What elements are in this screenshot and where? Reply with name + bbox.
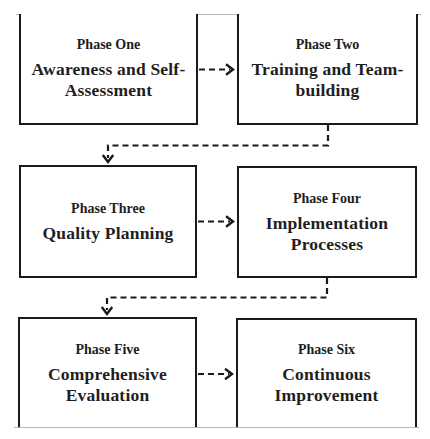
phase-three-box: Phase Three Quality Planning <box>19 165 197 278</box>
phase-title-line: Training and Team- <box>251 59 403 80</box>
phase-label: Phase One <box>77 36 140 54</box>
arrowhead-right-icon <box>227 217 233 226</box>
phase-label: Phase Two <box>296 36 360 54</box>
dashed-elbow-line <box>107 278 327 310</box>
phase-title-line: Improvement <box>275 385 379 406</box>
phase-title-line: Implementation <box>266 213 388 234</box>
phase-title-line: Awareness and Self- <box>32 59 186 80</box>
phase-title-line: Processes <box>291 234 363 255</box>
phase-title-line: Continuous <box>282 364 371 385</box>
phase-title-line: Comprehensive <box>48 364 167 385</box>
arrowhead-right-icon <box>226 370 232 379</box>
phase-six-box: Phase Six Continuous Improvement <box>236 318 417 427</box>
phase-one-box: Phase One Awareness and Self- Assessment <box>19 14 198 125</box>
phase-label: Phase Five <box>75 341 139 359</box>
arrowhead-right-icon <box>227 65 233 74</box>
phase-title-line: building <box>296 80 360 101</box>
phase-label: Phase Six <box>298 341 355 359</box>
phase-title-line: Assessment <box>65 80 153 101</box>
phase-five-box: Phase Five Comprehensive Evaluation <box>18 317 197 427</box>
phase-title-line: Evaluation <box>66 385 150 406</box>
phase-four-box: Phase Four Implementation Processes <box>237 166 417 278</box>
arrowhead-down-icon <box>103 308 112 314</box>
phase-two-box: Phase Two Training and Team- building <box>237 14 418 125</box>
arrowhead-down-icon <box>104 156 113 162</box>
phase-label: Phase Four <box>293 190 361 208</box>
phase-title-line: Quality Planning <box>42 223 173 244</box>
phase-label: Phase Three <box>71 200 145 218</box>
dashed-elbow-line <box>108 125 328 158</box>
bottom-frame-line <box>14 427 419 428</box>
